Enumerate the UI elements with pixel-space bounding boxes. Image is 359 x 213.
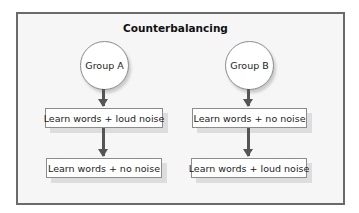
arrow-down-icon — [102, 89, 105, 106]
group-b-step-2: Learn words + loud noise — [191, 158, 307, 178]
group-b-label: Group B — [230, 60, 268, 71]
group-a-step-1-label: Learn words + loud noise — [44, 113, 165, 124]
group-b-step-2-label: Learn words + loud noise — [189, 163, 310, 174]
group-b-step-1: Learn words + no noise — [192, 108, 307, 128]
diagram-title: Counterbalancing — [0, 22, 355, 34]
group-a-step-2-label: Learn words + no noise — [48, 163, 160, 174]
group-a-node: Group A — [80, 41, 129, 90]
group-a-step-1: Learn words + loud noise — [45, 108, 163, 128]
group-a-label: Group A — [85, 60, 123, 71]
arrow-down-icon — [247, 89, 250, 106]
group-a-step-2: Learn words + no noise — [46, 158, 162, 178]
group-b-node: Group B — [225, 41, 274, 90]
arrow-down-icon — [247, 128, 250, 156]
arrow-down-icon — [102, 128, 105, 156]
group-b-step-1-label: Learn words + no noise — [194, 113, 306, 124]
